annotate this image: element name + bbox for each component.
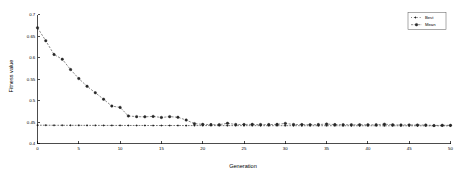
mean-marker xyxy=(193,122,196,125)
figure-window: 0.40.450.50.550.60.650.7 051015202530354… xyxy=(0,0,463,174)
mean-marker xyxy=(251,123,254,126)
mean-marker xyxy=(234,123,237,126)
mean-marker xyxy=(201,123,204,126)
mean-marker xyxy=(177,116,180,119)
mean-marker xyxy=(441,124,444,127)
fitness-chart[interactable]: 0.40.450.50.550.60.650.7 051015202530354… xyxy=(0,0,463,174)
y-tick-label: 0.5 xyxy=(29,98,36,103)
mean-marker xyxy=(119,106,122,109)
x-axis-label: Generation xyxy=(229,163,257,169)
best-marker xyxy=(144,125,146,127)
mean-marker xyxy=(334,123,337,126)
y-tick-label: 0.7 xyxy=(29,12,36,17)
mean-marker xyxy=(416,124,419,127)
mean-marker xyxy=(144,116,147,119)
mean-marker xyxy=(36,27,39,30)
y-axis-label: Fitness value xyxy=(8,60,14,93)
mean-marker xyxy=(102,98,105,101)
x-tick-label: 15 xyxy=(159,146,164,151)
mean-marker xyxy=(268,123,271,126)
chart-legend[interactable]: BestMean xyxy=(408,13,446,30)
legend-label: Best xyxy=(425,15,434,20)
mean-marker xyxy=(69,68,72,71)
mean-marker xyxy=(301,123,304,126)
best-marker xyxy=(119,124,121,126)
mean-marker xyxy=(309,123,312,126)
y-tick-label: 0.4 xyxy=(29,141,36,146)
mean-marker xyxy=(400,124,403,127)
mean-marker xyxy=(168,115,171,118)
mean-marker xyxy=(449,124,452,127)
mean-marker xyxy=(317,123,320,126)
mean-marker xyxy=(284,122,287,125)
mean-marker xyxy=(53,53,56,56)
x-tick-label: 0 xyxy=(36,146,39,151)
mean-marker xyxy=(185,119,188,122)
mean-marker xyxy=(111,105,114,108)
mean-marker xyxy=(210,123,213,126)
best-marker xyxy=(53,124,55,126)
mean-marker xyxy=(424,124,427,127)
y-tick-label: 0.55 xyxy=(27,77,36,82)
best-marker xyxy=(61,124,63,126)
mean-marker xyxy=(358,124,361,127)
mean-marker xyxy=(259,123,262,126)
mean-marker xyxy=(325,123,328,126)
series-mean[interactable] xyxy=(36,27,452,127)
best-marker xyxy=(103,124,105,126)
mean-marker xyxy=(342,123,345,126)
best-marker xyxy=(111,124,113,126)
mean-marker xyxy=(78,77,81,80)
mean-marker xyxy=(350,124,353,127)
mean-marker xyxy=(86,85,89,88)
x-tick-label: 35 xyxy=(324,146,329,151)
mean-marker xyxy=(45,39,48,42)
mean-marker xyxy=(243,123,246,126)
best-marker xyxy=(177,125,179,127)
y-tick-label: 0.65 xyxy=(27,34,36,39)
y-tick-label: 0.45 xyxy=(27,120,36,125)
best-marker xyxy=(152,125,154,127)
y-axis-ticks: 0.40.450.50.550.60.650.7 xyxy=(27,12,40,146)
best-marker xyxy=(227,125,229,127)
x-tick-label: 5 xyxy=(78,146,81,151)
mean-marker xyxy=(94,92,97,95)
x-tick-label: 10 xyxy=(118,146,123,151)
best-marker xyxy=(78,124,80,126)
best-marker xyxy=(136,125,138,127)
x-tick-label: 50 xyxy=(448,146,453,151)
best-marker xyxy=(284,125,286,127)
legend-label: Mean xyxy=(425,22,436,27)
x-tick-label: 25 xyxy=(242,146,247,151)
x-tick-label: 45 xyxy=(407,146,412,151)
mean-marker xyxy=(391,124,394,127)
mean-marker xyxy=(433,124,436,127)
x-tick-label: 40 xyxy=(365,146,370,151)
mean-marker xyxy=(367,124,370,127)
best-marker xyxy=(160,125,162,127)
mean-marker xyxy=(276,123,279,126)
best-marker xyxy=(37,124,39,126)
mean-marker xyxy=(292,123,295,126)
best-marker xyxy=(169,125,171,127)
mean-marker xyxy=(61,58,64,61)
mean-marker xyxy=(408,124,411,127)
mean-marker xyxy=(218,123,221,126)
y-tick-label: 0.6 xyxy=(29,55,36,60)
mean-marker xyxy=(226,122,229,125)
x-tick-label: 30 xyxy=(283,146,288,151)
x-tick-label: 20 xyxy=(200,146,205,151)
best-marker xyxy=(86,124,88,126)
mean-marker xyxy=(152,115,155,118)
x-axis-ticks: 05101520253035404550 xyxy=(36,141,453,151)
mean-marker xyxy=(160,116,163,119)
mean-marker xyxy=(135,115,138,118)
best-marker xyxy=(185,125,187,127)
best-marker xyxy=(127,125,129,127)
mean-marker xyxy=(127,115,130,118)
mean-marker xyxy=(375,124,378,127)
best-marker xyxy=(94,124,96,126)
mean-line xyxy=(38,28,451,126)
best-marker xyxy=(45,124,47,126)
best-marker xyxy=(70,124,72,126)
